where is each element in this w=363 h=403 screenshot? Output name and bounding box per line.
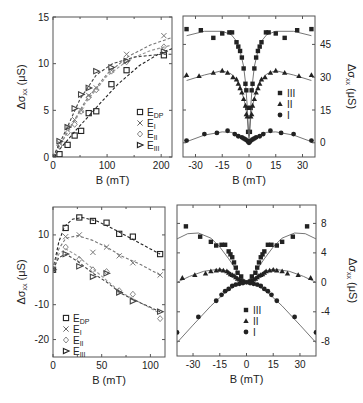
filled-circle-marker (214, 131, 219, 136)
x-tick-label: -15 (213, 359, 228, 370)
legend-label: III (253, 305, 261, 316)
y-axis-label: Δσxx (μS) (15, 259, 28, 304)
filled-square-marker (256, 49, 260, 53)
x-marker (77, 232, 82, 237)
filled-square-marker (275, 243, 279, 247)
filled-circle-marker (291, 132, 296, 137)
y-label-unit: (μS) (15, 64, 27, 88)
filled-square-marker (262, 249, 266, 253)
y-tick-label: 0 (43, 152, 49, 163)
y-tick-label: 15 (38, 12, 50, 23)
filled-square-marker (274, 31, 278, 35)
square-marker (90, 218, 95, 223)
filled-square-marker (243, 82, 247, 86)
diamond-marker (63, 337, 68, 343)
x-marker (161, 33, 166, 38)
x-tick-label: 15 (268, 359, 280, 370)
filled-square-marker (255, 265, 259, 269)
legend-label: EIII (73, 346, 86, 358)
legend-label: III (287, 88, 295, 99)
filled-square-marker (214, 243, 218, 247)
y-tick-label: 15 (320, 105, 332, 116)
x-axis: 050100 (50, 207, 159, 371)
panel-bottom-right: -30-1501530B (mT)-8-4048Δσxx (μS)IIIIII (175, 205, 359, 385)
filled-square-marker (269, 243, 273, 247)
filled-square-marker (211, 36, 215, 40)
series-e-iii (50, 49, 172, 160)
square-marker (130, 234, 135, 239)
x-tick-label: 15 (270, 160, 282, 171)
filled-square-marker (234, 40, 238, 44)
filled-square-marker (184, 224, 188, 228)
x-marker (158, 272, 163, 277)
legend-label: EIII (147, 140, 160, 152)
x-marker (90, 250, 95, 255)
series-e-dp (50, 215, 162, 273)
filled-square-marker (241, 66, 245, 70)
filled-square-marker (232, 260, 236, 264)
filled-triangle-marker (225, 70, 230, 75)
filled-triangle-marker (241, 96, 246, 101)
y-label-unit: (μS) (346, 85, 358, 109)
fit-curve (187, 71, 312, 139)
filled-triangle-marker (308, 275, 313, 280)
x-marker (63, 326, 68, 331)
legend-subscript: III (154, 145, 160, 152)
filled-triangle-marker (249, 112, 254, 117)
legend-label: II (253, 316, 259, 327)
filled-triangle-marker (237, 85, 242, 90)
x-axis-label: B (mT) (96, 174, 130, 186)
legend-subscript: I (154, 123, 156, 130)
filled-square-marker (230, 255, 234, 259)
filled-square-marker (258, 44, 262, 48)
x-tick-label: 200 (153, 160, 170, 171)
filled-square-marker (280, 240, 284, 244)
filled-triangle-marker (184, 72, 189, 77)
filled-triangle-marker (255, 85, 260, 90)
filled-triangle-marker (295, 272, 300, 277)
filled-square-marker (253, 271, 257, 275)
y-tick-label: -8 (321, 336, 330, 347)
series-e-ii (50, 244, 162, 322)
plot-frame (53, 207, 165, 357)
x-tick-label: -30 (186, 359, 201, 370)
y-tick-label: 8 (321, 218, 327, 229)
filled-circle-marker (314, 330, 319, 335)
filled-circle-marker (269, 292, 274, 297)
x-tick-label: 0 (244, 359, 250, 370)
square-marker (158, 251, 163, 256)
square-marker (86, 111, 91, 116)
filled-triangle-marker (273, 68, 278, 73)
y-tick-label: -20 (35, 334, 50, 345)
x-tick-label: 30 (297, 160, 309, 171)
filled-circle-marker (278, 113, 283, 118)
fit-curve (53, 249, 160, 314)
filled-circle-marker (196, 315, 201, 320)
x-tick-label: 0 (246, 160, 252, 171)
panel-bottom-left: 050100B (mT)-20-10010Δσxx (μS)EDPEIEIIEI… (15, 207, 165, 386)
filled-square-marker (244, 308, 248, 312)
fit-curve (53, 49, 172, 157)
filled-square-marker (295, 28, 299, 32)
filled-square-marker (257, 260, 261, 264)
filled-triangle-marker (243, 318, 248, 323)
y-axis-label: Δσxx (μS) (345, 64, 358, 109)
x-tick-label: 0 (50, 360, 56, 371)
y-tick-label: -10 (35, 299, 50, 310)
filled-square-marker (240, 55, 244, 59)
series-iii (184, 27, 313, 136)
filled-square-marker (254, 55, 258, 59)
filled-square-marker (291, 234, 295, 238)
square-marker (65, 142, 70, 147)
x-tick-label: 30 (294, 359, 306, 370)
filled-circle-marker (261, 132, 266, 137)
x-marker (137, 120, 142, 125)
y-tick-label: 0 (43, 264, 49, 275)
filled-circle-marker (202, 132, 207, 137)
filled-triangle-marker (262, 74, 267, 79)
x-tick-label: -15 (215, 160, 230, 171)
square-marker (124, 68, 129, 73)
filled-square-marker (198, 234, 202, 238)
filled-triangle-marker (180, 275, 185, 280)
filled-square-marker (220, 31, 224, 35)
